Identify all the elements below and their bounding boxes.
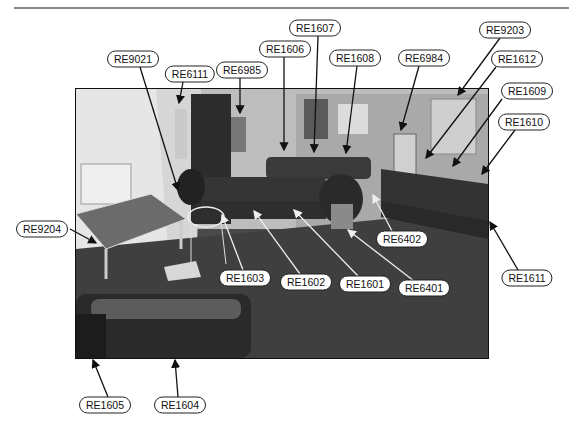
callout-label-re9203: RE9203 bbox=[479, 22, 531, 39]
leader-arrow-re1605 bbox=[93, 360, 108, 397]
callout-label-re6984: RE6984 bbox=[398, 50, 450, 67]
callout-label-re1610: RE1610 bbox=[498, 114, 550, 131]
callout-label-re1602: RE1602 bbox=[280, 274, 332, 291]
callout-label-re6402: RE6402 bbox=[376, 231, 428, 248]
leader-arrow-re1611 bbox=[490, 222, 518, 270]
callout-label-re1611: RE1611 bbox=[501, 270, 552, 287]
callout-label-re1607: RE1607 bbox=[289, 20, 341, 37]
callout-label-re1612: RE1612 bbox=[491, 51, 543, 68]
callout-label-re1606: RE1606 bbox=[259, 41, 311, 58]
callout-label-re1605: RE1605 bbox=[79, 397, 131, 414]
callout-label-re1601: RE1601 bbox=[339, 276, 391, 293]
photo-illustration bbox=[76, 89, 488, 358]
leader-arrow-re9203 bbox=[458, 38, 500, 95]
callout-label-re6401: RE6401 bbox=[398, 280, 450, 297]
callout-label-re9204: RE9204 bbox=[16, 221, 68, 238]
callout-label-re1609: RE1609 bbox=[501, 83, 553, 100]
callout-label-re6111: RE6111 bbox=[165, 66, 215, 83]
callout-label-re1603: RE1603 bbox=[219, 270, 271, 287]
leader-arrow-re1604 bbox=[175, 360, 178, 397]
callout-label-re6985: RE6985 bbox=[216, 62, 268, 79]
top-rule bbox=[14, 7, 569, 9]
callout-label-re1608: RE1608 bbox=[329, 50, 381, 67]
callout-label-re1604: RE1604 bbox=[154, 397, 206, 414]
waiting-room-photo bbox=[75, 88, 489, 359]
callout-label-re9021: RE9021 bbox=[107, 51, 159, 68]
